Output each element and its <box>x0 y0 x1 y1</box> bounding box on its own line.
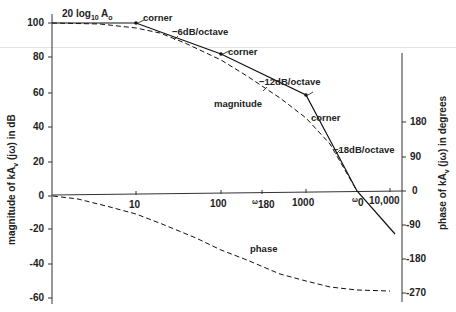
left-tick-minus20: -20 <box>18 224 44 234</box>
right-axis-title-text: phase of kA <box>437 173 448 230</box>
left-tick-minus40: -40 <box>18 259 44 269</box>
x-tick-100: 100 <box>210 199 227 209</box>
right-tick-90: 90 <box>410 152 421 162</box>
w180-sub: 180 <box>258 199 275 210</box>
x-tick-w0: ω0 <box>352 196 363 208</box>
phase-line <box>53 196 390 291</box>
w0-sub: 0 <box>358 197 364 208</box>
left-tick-20: 20 <box>18 157 44 167</box>
right-axis-ticks <box>402 122 406 293</box>
x-tick-w180: ω180 <box>252 198 275 210</box>
right-tick-180: 180 <box>410 117 427 127</box>
slope-label-18db: −18dB/octave <box>333 145 395 155</box>
left-tick-minus60: -60 <box>18 293 44 303</box>
left-tick-80: 80 <box>18 52 44 62</box>
ao-label-sub: 10 <box>91 14 99 21</box>
slope-label-12db: −12dB/octave <box>259 77 321 87</box>
left-axis-title-sub: v <box>12 163 19 167</box>
x-tick-1000: 1000 <box>292 198 314 208</box>
right-axis-title: phase of kAv (jω) in degrees <box>437 96 450 230</box>
phase-label: phase <box>250 244 277 254</box>
left-axis-title-end: (jω) in dB <box>6 114 17 162</box>
right-tick-minus180: -180 <box>406 254 426 264</box>
corner-label-1: corner <box>143 13 173 23</box>
corner-dot-2 <box>219 52 223 56</box>
x-tick-10: 10 <box>129 200 140 210</box>
right-tick-0: 0 <box>412 186 418 196</box>
right-tick-minus90: -90 <box>406 220 420 230</box>
corner-dot-3 <box>304 93 308 97</box>
x-axis <box>52 191 402 195</box>
left-axis-title: magnitude of kAv (jω) in dB <box>6 114 19 245</box>
ao-label-prefix: 20 log <box>62 8 91 19</box>
annotation-leaders <box>138 20 340 154</box>
right-axis-title-end: (jω) in degrees <box>437 96 448 169</box>
corner-label-2: corner <box>228 47 258 57</box>
slope-label-6db: −6dB/octave <box>172 27 228 37</box>
x-tick-10000: 10,000 <box>369 196 400 206</box>
left-tick-0: 0 <box>18 191 44 201</box>
right-tick-minus270: -270 <box>406 288 426 298</box>
left-tick-100: 100 <box>18 18 44 28</box>
ao-label-suffix: A <box>99 8 109 19</box>
left-tick-60: 60 <box>18 88 44 98</box>
left-axis-ticks <box>48 23 52 298</box>
right-axis-title-sub: v <box>443 169 450 173</box>
corner-dot-1 <box>134 21 138 25</box>
magnitude-label: magnitude <box>214 99 262 109</box>
corner-label-3: corner <box>311 113 341 123</box>
left-tick-40: 40 <box>18 122 44 132</box>
ao-label: 20 log10 Ao <box>62 9 113 21</box>
ao-label-sub2: o <box>108 14 112 21</box>
left-axis-title-text: magnitude of kA <box>6 167 17 245</box>
